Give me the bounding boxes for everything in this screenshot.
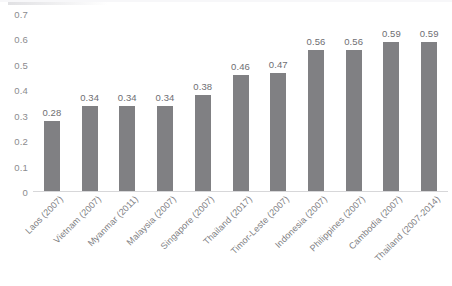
bar[interactable] (233, 75, 249, 192)
y-axis-tick-labels: 00.10.20.30.40.50.60.7 (0, 14, 33, 192)
bar-value-label: 0.38 (193, 81, 212, 92)
bars-layer: 0.280.340.340.340.380.460.470.560.560.59… (33, 14, 448, 192)
bar-value-label: 0.56 (344, 36, 363, 47)
scan-artifact-top (0, 0, 452, 2)
y-axis-tick-label: 0.4 (14, 85, 28, 96)
x-axis-tick-label: Thailand (2007-2014) (373, 194, 442, 263)
bar[interactable] (383, 42, 399, 192)
bar[interactable] (346, 50, 362, 192)
x-axis-category-labels: Laos (2007)Vietnam (2007)Myanmar (2011)M… (33, 194, 448, 286)
bar[interactable] (119, 106, 135, 192)
bar-value-label: 0.59 (382, 28, 401, 39)
x-axis-line (33, 191, 448, 192)
bar-group[interactable]: 0.47 (270, 14, 286, 192)
bar[interactable] (308, 50, 324, 192)
bar-group[interactable]: 0.59 (383, 14, 399, 192)
y-axis-tick-label: 0 (23, 187, 28, 198)
bar[interactable] (82, 106, 98, 192)
bar[interactable] (44, 121, 60, 192)
bar[interactable] (195, 95, 211, 192)
bar-group[interactable]: 0.34 (157, 14, 173, 192)
bar-value-label: 0.47 (269, 59, 288, 70)
bar-group[interactable]: 0.59 (421, 14, 437, 192)
bar-value-label: 0.34 (80, 92, 99, 103)
bar-group[interactable]: 0.38 (195, 14, 211, 192)
bar-value-label: 0.28 (42, 107, 61, 118)
bar-group[interactable]: 0.28 (44, 14, 60, 192)
scan-artifact-smudge (8, 2, 108, 5)
y-axis-tick-label: 0.6 (14, 34, 28, 45)
bar-chart-figure: 00.10.20.30.40.50.60.7 0.280.340.340.340… (0, 0, 452, 286)
bar[interactable] (421, 42, 437, 192)
bar-value-label: 0.56 (307, 36, 326, 47)
plot-area: 0.280.340.340.340.380.460.470.560.560.59… (33, 14, 448, 192)
y-axis-tick-label: 0.5 (14, 59, 28, 70)
y-axis-tick-label: 0.2 (14, 136, 28, 147)
bar-value-label: 0.34 (156, 92, 175, 103)
bar[interactable] (157, 106, 173, 192)
bar[interactable] (270, 73, 286, 193)
bar-value-label: 0.34 (118, 92, 137, 103)
bar-group[interactable]: 0.56 (308, 14, 324, 192)
bar-group[interactable]: 0.34 (119, 14, 135, 192)
y-axis-tick-label: 0.3 (14, 110, 28, 121)
bar-group[interactable]: 0.56 (346, 14, 362, 192)
bar-value-label: 0.46 (231, 61, 250, 72)
y-axis-tick-label: 0.7 (14, 9, 28, 20)
bar-group[interactable]: 0.46 (233, 14, 249, 192)
bar-group[interactable]: 0.34 (82, 14, 98, 192)
y-axis-tick-label: 0.1 (14, 161, 28, 172)
bar-value-label: 0.59 (420, 28, 439, 39)
